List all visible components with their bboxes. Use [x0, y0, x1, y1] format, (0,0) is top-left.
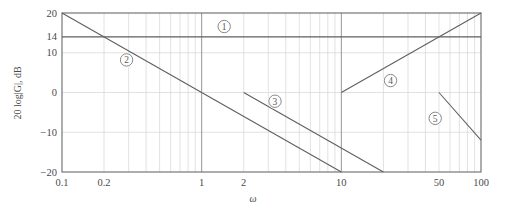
- bode-plot-figure: 0.10.2121050100 2014100−10−20 12345 ω 20…: [0, 0, 506, 215]
- y-tick-label: −20: [41, 167, 57, 178]
- bode-magnitude-chart: 0.10.2121050100 2014100−10−20 12345 ω 20…: [0, 0, 506, 215]
- x-tick-label: 100: [473, 177, 489, 188]
- marker-number: 1: [222, 22, 227, 32]
- x-tick-label: 0.1: [55, 177, 68, 188]
- x-axis-title: ω: [249, 193, 256, 204]
- chart-background: [0, 0, 506, 215]
- marker-number: 3: [273, 97, 278, 107]
- curve-marker-3: 3: [268, 94, 283, 109]
- x-tick-label: 10: [336, 177, 347, 188]
- marker-number: 5: [433, 114, 438, 124]
- y-tick-label: 20: [47, 8, 58, 19]
- x-tick-label: 0.2: [97, 177, 110, 188]
- x-tick-label: 2: [241, 177, 246, 188]
- curve-marker-1: 1: [217, 19, 232, 34]
- x-tick-label: 1: [199, 177, 204, 188]
- y-tick-label: −10: [41, 127, 57, 138]
- y-tick-label: 10: [47, 47, 58, 58]
- curve-marker-4: 4: [383, 73, 398, 88]
- curve-marker-5: 5: [428, 111, 443, 126]
- x-tick-label: 50: [434, 177, 445, 188]
- y-axis-title: 20 log|G|, dB: [12, 66, 23, 120]
- marker-number: 2: [124, 55, 129, 65]
- curve-marker-2: 2: [119, 53, 134, 68]
- marker-number: 4: [388, 76, 393, 86]
- y-tick-label: 14: [47, 31, 58, 42]
- y-tick-label: 0: [52, 87, 57, 98]
